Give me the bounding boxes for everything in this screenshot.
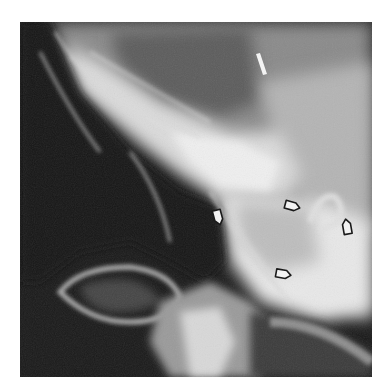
film-grain xyxy=(20,22,372,377)
radiograph-image xyxy=(20,22,372,377)
radiograph-canvas xyxy=(20,22,372,377)
